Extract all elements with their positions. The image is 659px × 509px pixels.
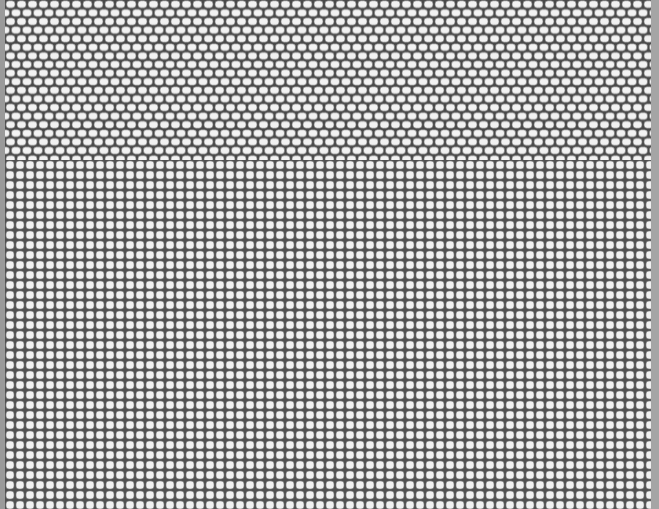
square-pattern [5,160,651,509]
hex-cell-band [5,0,651,160]
hex-pattern [5,0,651,160]
left-border-strip [0,0,5,509]
right-border-strip [651,0,659,509]
texture-canvas [0,0,659,509]
square-cell-grid [5,160,651,509]
